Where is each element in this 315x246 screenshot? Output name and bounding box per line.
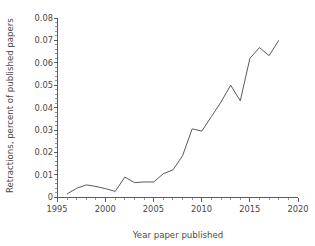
x-axis-title: Year paper published [132,230,223,240]
chart-canvas: Retractions, percent of published papers… [0,0,315,246]
x-tick-label: 1995 [46,204,67,214]
y-axis-tick-labels: 0.08 0.07 0.06 0.05 0.04 0.03 0.02 0.01 … [35,13,53,202]
y-tick-label: 0.06 [35,58,53,68]
y-tick-label: 0.04 [35,103,53,113]
retractions-series-line [67,40,279,193]
y-tick-label: 0.05 [35,80,53,90]
x-tick-label: 2020 [287,204,308,214]
y-axis-title: Retractions, percent of published papers [5,18,15,193]
y-tick-label: 0 [48,192,53,202]
x-tick-label: 2005 [143,204,164,214]
x-axis-tick-labels: 1995 2000 2005 2010 2015 2020 [46,204,308,214]
y-tick-label: 0.07 [35,35,53,45]
x-tick-label: 2000 [95,204,116,214]
retractions-line-chart: Retractions, percent of published papers… [0,0,315,246]
y-tick-label: 0.08 [35,13,53,23]
y-tick-label: 0.01 [35,170,53,180]
y-tick-label: 0.03 [35,125,53,135]
x-tick-label: 2010 [191,204,212,214]
x-axis-major-ticks [58,198,299,203]
y-tick-label: 0.02 [35,147,53,157]
x-tick-label: 2015 [239,204,260,214]
